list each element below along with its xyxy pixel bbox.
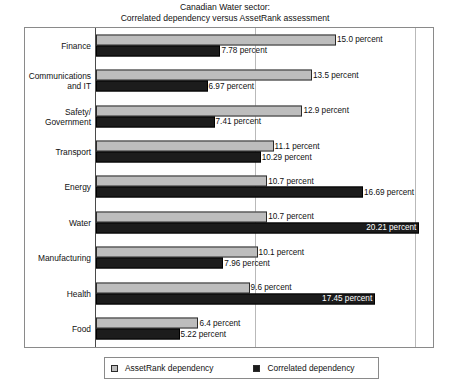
bar-value-label: 16.69 percent: [364, 188, 414, 197]
bar-group: 6.4 percent5.22 percent: [96, 318, 434, 341]
bar-assetrank[interactable]: 6.4 percent: [96, 318, 198, 329]
bar-group: 9.6 percent17.45 percent: [96, 282, 434, 305]
chart-row: Communications and IT13.5 percent6.97 pe…: [25, 63, 433, 98]
legend-swatch-assetrank: [111, 365, 118, 372]
bar-assetrank[interactable]: 9.6 percent: [96, 282, 250, 293]
bar-group: 15.0 percent7.78 percent: [96, 34, 434, 57]
bar-assetrank[interactable]: 10.1 percent: [96, 247, 258, 258]
bar-value-label: 5.22 percent: [181, 330, 227, 339]
category-label: Transport: [0, 147, 91, 157]
bar-value-label: 7.41 percent: [216, 117, 262, 126]
bar-group: 13.5 percent6.97 percent: [96, 70, 434, 93]
bar-assetrank[interactable]: 10.7 percent: [96, 211, 267, 222]
bar-correlated[interactable]: 7.78 percent: [96, 45, 220, 56]
chart-row: Finance15.0 percent7.78 percent: [25, 28, 433, 63]
chart-row: Food6.4 percent5.22 percent: [25, 312, 433, 347]
legend-swatch-correlated: [253, 365, 260, 372]
bar-correlated[interactable]: 7.96 percent: [96, 258, 223, 269]
bar-value-label: 7.78 percent: [221, 46, 267, 55]
bar-group: 10.7 percent16.69 percent: [96, 176, 434, 199]
chart-row: Energy10.7 percent16.69 percent: [25, 170, 433, 205]
bar-value-label: 7.96 percent: [224, 259, 270, 268]
bar-assetrank[interactable]: 10.7 percent: [96, 176, 267, 187]
category-label: Energy: [0, 182, 91, 192]
chart-subtitle: Correlated dependency versus AssetRank a…: [0, 13, 450, 24]
chart-title-block: Canadian Water sector: Correlated depend…: [0, 2, 450, 24]
category-label: Food: [0, 324, 91, 334]
category-label: Finance: [0, 41, 91, 51]
category-label: Health: [0, 289, 91, 299]
bar-value-label: 17.45 percent: [322, 294, 372, 303]
bar-value-label: 12.9 percent: [303, 106, 349, 115]
category-label: Communications and IT: [0, 71, 91, 91]
bar-group: 10.1 percent7.96 percent: [96, 247, 434, 270]
bar-correlated[interactable]: 20.21 percent: [96, 222, 419, 233]
category-label: Manufacturing: [0, 253, 91, 263]
bar-group: 12.9 percent7.41 percent: [96, 105, 434, 128]
legend-item-assetrank-dependency[interactable]: AssetRank dependency: [111, 363, 213, 373]
plot-area: Finance15.0 percent7.78 percentCommunica…: [24, 27, 434, 348]
bar-value-label: 10.7 percent: [268, 177, 314, 186]
bar-correlated[interactable]: 6.97 percent: [96, 81, 208, 92]
chart-title: Canadian Water sector:: [0, 2, 450, 13]
bar-value-label: 10.7 percent: [268, 212, 314, 221]
legend-label-correlated: Correlated dependency: [267, 363, 354, 373]
bar-value-label: 9.6 percent: [251, 283, 292, 292]
bar-value-label: 10.29 percent: [262, 153, 312, 162]
bar-value-label: 20.21 percent: [366, 223, 416, 232]
bar-correlated[interactable]: 16.69 percent: [96, 187, 363, 198]
bar-value-label: 6.97 percent: [209, 82, 255, 91]
bar-value-label: 13.5 percent: [313, 71, 359, 80]
bar-group: 11.1 percent10.29 percent: [96, 141, 434, 164]
chart-row: Health9.6 percent17.45 percent: [25, 276, 433, 311]
chart-container: Canadian Water sector: Correlated depend…: [0, 0, 450, 390]
bar-assetrank[interactable]: 13.5 percent: [96, 70, 312, 81]
bar-value-label: 15.0 percent: [337, 35, 383, 44]
bar-correlated[interactable]: 17.45 percent: [96, 293, 375, 304]
chart-row: Manufacturing10.1 percent7.96 percent: [25, 241, 433, 276]
category-label: Water: [0, 218, 91, 228]
bar-correlated[interactable]: 7.41 percent: [96, 116, 215, 127]
bar-assetrank[interactable]: 12.9 percent: [96, 105, 302, 116]
legend-item-correlated-dependency[interactable]: Correlated dependency: [253, 363, 354, 373]
bar-value-label: 11.1 percent: [275, 142, 320, 151]
chart-row: Transport11.1 percent10.29 percent: [25, 134, 433, 169]
bar-group: 10.7 percent20.21 percent: [96, 211, 434, 234]
category-label: Safety/ Government: [0, 107, 91, 127]
chart-legend: AssetRank dependency Correlated dependen…: [104, 357, 379, 379]
plot-inner: Finance15.0 percent7.78 percentCommunica…: [25, 28, 433, 347]
bar-correlated[interactable]: 5.22 percent: [96, 329, 180, 340]
bar-assetrank[interactable]: 11.1 percent: [96, 141, 274, 152]
bar-value-label: 10.1 percent: [259, 248, 305, 257]
bar-value-label: 6.4 percent: [199, 319, 240, 328]
chart-row: Safety/ Government12.9 percent7.41 perce…: [25, 99, 433, 134]
chart-row: Water10.7 percent20.21 percent: [25, 205, 433, 240]
bar-assetrank[interactable]: 15.0 percent: [96, 34, 336, 45]
legend-label-assetrank: AssetRank dependency: [125, 363, 213, 373]
bar-correlated[interactable]: 10.29 percent: [96, 152, 261, 163]
